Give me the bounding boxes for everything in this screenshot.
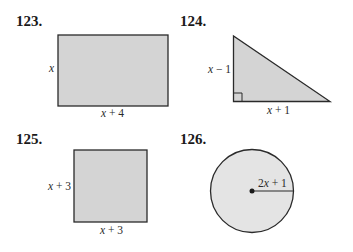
problem-number-126: 126. — [180, 131, 206, 148]
triangle-height-label: x − 1 — [208, 63, 231, 75]
square-shape — [74, 150, 147, 222]
circle-radius-label: 2x + 1 — [258, 177, 287, 189]
height-text: x — [49, 62, 54, 74]
rectangle-width-label: x + 4 — [101, 107, 124, 119]
rectangle-height-label: x — [49, 62, 54, 74]
square-height-label: x + 3 — [48, 180, 71, 192]
figures-canvas — [0, 0, 353, 252]
center-point — [250, 189, 255, 194]
problem-number-125: 125. — [16, 131, 42, 148]
problem-number-124: 124. — [180, 13, 206, 30]
triangle-base-label: x + 1 — [267, 104, 290, 116]
square-width-label: x + 3 — [100, 224, 123, 236]
rectangle-shape — [58, 35, 168, 106]
right-triangle-shape — [234, 36, 331, 102]
problem-number-123: 123. — [16, 13, 42, 30]
